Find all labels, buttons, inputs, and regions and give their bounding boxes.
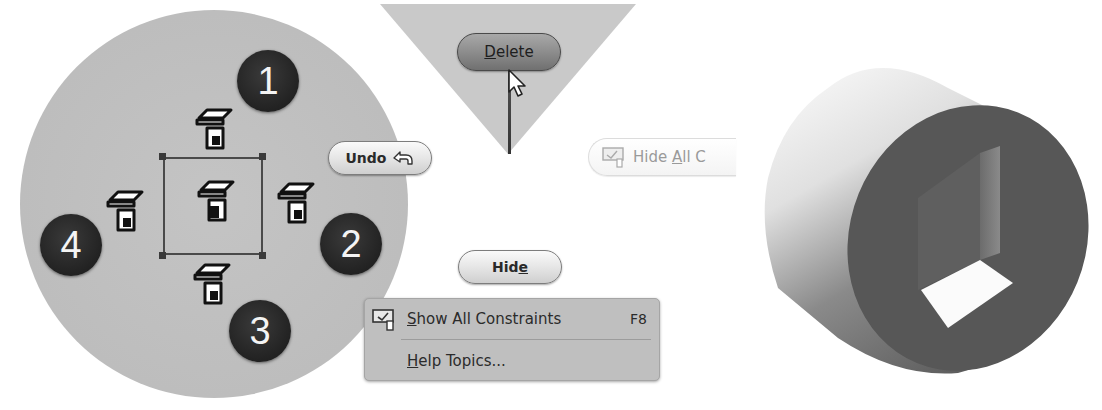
context-menu: Show All Constraints F8 Help Topics... [364,298,660,381]
step-badge-2: 2 [320,213,382,275]
constraint-icon-right[interactable] [275,182,317,226]
constraint-icon-bottom[interactable] [191,263,233,307]
delete-label: Delete [484,43,533,61]
step-badge-3: 3 [229,300,291,362]
selection-handle-tr[interactable] [259,153,266,160]
undo-label: Undo [346,150,387,166]
menu-separator [401,339,651,340]
menu-item-show-all-constraints[interactable]: Show All Constraints F8 [365,301,659,337]
menu-item-shortcut: F8 [630,311,647,327]
menu-item-label: Help Topics... [407,352,506,370]
mouse-cursor-icon [507,68,529,98]
selection-handle-bl[interactable] [159,252,166,259]
step-badge-1: 1 [237,50,299,112]
constraint-icon-top[interactable] [193,108,235,152]
constraint-icon-center[interactable] [195,180,237,224]
show-constraints-icon [371,307,399,333]
selection-handle-tl[interactable] [159,153,166,160]
menu-item-label: Show All Constraints [407,310,561,328]
constraint-icon-left[interactable] [104,190,146,234]
selection-handle-br[interactable] [259,252,266,259]
hide-label: Hide [492,259,528,275]
3d-cylinder-model [758,28,1098,388]
hide-button[interactable]: Hide [458,250,562,284]
hide-all-label: Hide All C [633,148,706,166]
undo-button[interactable]: Undo [328,141,432,175]
delete-button[interactable]: Delete [457,33,561,71]
constraint-visibility-icon [601,145,627,169]
undo-arrow-icon [392,150,414,166]
hide-all-constraints-button[interactable]: Hide All C [588,138,736,176]
step-badge-4: 4 [40,214,102,276]
menu-item-help-topics[interactable]: Help Topics... [365,343,659,379]
